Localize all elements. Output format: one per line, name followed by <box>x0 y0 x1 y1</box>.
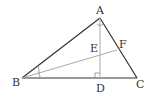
segment-AB <box>22 18 100 78</box>
angle-mark-b2 <box>39 73 40 78</box>
triangle-diagram: A B C D E F <box>0 0 154 97</box>
label-A: A <box>95 4 105 17</box>
label-E: E <box>90 42 98 55</box>
right-angle-mark <box>95 73 100 78</box>
label-B: B <box>12 76 20 89</box>
label-D: D <box>96 82 105 95</box>
label-F: F <box>119 38 127 51</box>
angle-mark-b1 <box>38 66 39 73</box>
segment-BF <box>22 50 117 78</box>
label-C: C <box>136 78 144 91</box>
